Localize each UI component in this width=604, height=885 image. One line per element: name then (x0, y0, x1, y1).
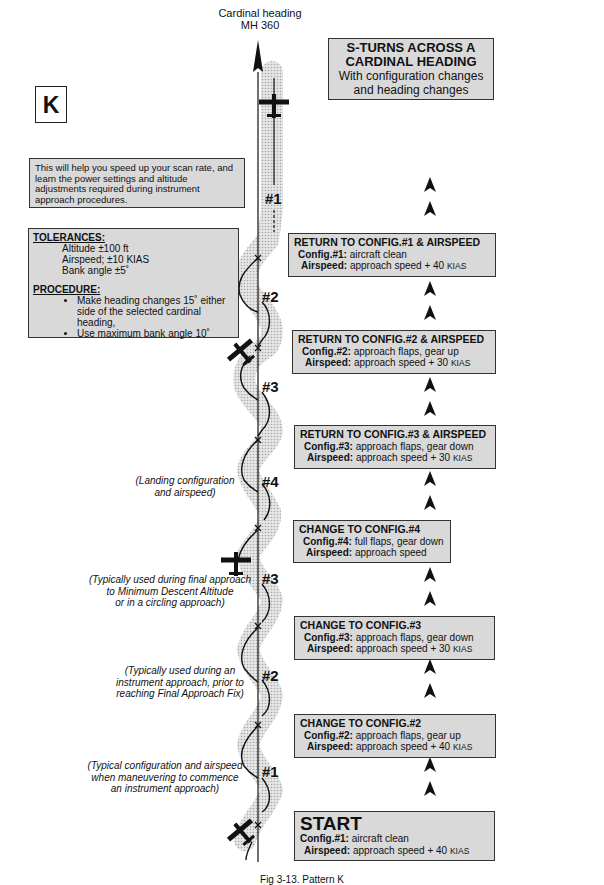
airspeed-value: approach speed + 40 (353, 845, 447, 856)
path-label: #3 (262, 378, 279, 395)
config-label: Config.#2: (304, 730, 353, 741)
title-line1: S-TURNS ACROSS A (329, 41, 493, 55)
note-landing: (Landing configuration and airspeed) (130, 475, 240, 498)
step-title: RETURN TO CONFIG.#3 & AIRSPEED (300, 429, 490, 441)
airspeed-value: approach speed + 30 (356, 643, 450, 654)
airspeed-value: approach speed + 40 (356, 741, 450, 752)
path-label: #1 (262, 763, 279, 780)
figure-caption: Fig 3-13. Pattern K (0, 874, 604, 885)
config-label: Config.#4: (303, 536, 352, 547)
config-value: approach flaps, gear down (356, 632, 474, 643)
airspeed-unit: KIAS (447, 261, 466, 271)
path-label: #4 (262, 473, 279, 490)
step-title: RETURN TO CONFIG.#1 & AIRSPEED (294, 237, 490, 249)
procedure-item: Make heading changes 15˚ either side of … (77, 295, 234, 328)
step-box-change-config-3: CHANGE TO CONFIG.#3 Config.#3: approach … (294, 616, 495, 660)
airspeed-label: Airspeed: (307, 452, 353, 463)
path-label: #2 (262, 288, 279, 305)
heading-label: Cardinal heading MH 360 (205, 7, 315, 31)
pattern-letter: K (35, 86, 67, 123)
note-line: or in a circling approach) (70, 597, 270, 609)
config-value: aircraft clean (350, 249, 407, 260)
heading-label-line2: MH 360 (205, 19, 315, 31)
path-label: #1 (265, 190, 282, 207)
config-value: approach flaps, gear down (356, 441, 474, 452)
note-line: (Typically used during final approach (70, 574, 270, 586)
tolerances-box: TOLERANCES: Altitude ±100 ft Airspeed; ±… (28, 228, 239, 338)
config-value: full flaps, gear down (355, 536, 444, 547)
airspeed-value: approach speed + 40 (350, 260, 444, 271)
tolerance-item: Altitude ±100 ft (33, 243, 234, 254)
note-line: and airspeed) (130, 487, 240, 499)
step-box-start: START Config.#1: aircraft clean Airspeed… (294, 811, 495, 861)
step-box-change-config-2: CHANGE TO CONFIG.#2 Config.#2: approach … (294, 714, 496, 758)
note-line: (Typically used during an (100, 665, 260, 677)
step-title: CHANGE TO CONFIG.#2 (300, 718, 490, 730)
airspeed-label: Airspeed: (304, 845, 350, 856)
step-box-return-config-1: RETURN TO CONFIG.#1 & AIRSPEED Config.#1… (288, 233, 496, 277)
procedure-item: Use maximum bank angle 10˚ (77, 328, 234, 339)
tolerances-header: TOLERANCES: (33, 232, 234, 243)
step-box-return-config-3: RETURN TO CONFIG.#3 & AIRSPEED Config.#3… (294, 425, 496, 469)
airspeed-label: Airspeed: (301, 260, 347, 271)
airspeed-label: Airspeed: (305, 357, 351, 368)
subtitle-line1: With configuration changes (329, 69, 493, 83)
step-title: START (300, 815, 489, 833)
step-title: CHANGE TO CONFIG.#4 (299, 524, 445, 536)
subtitle-line2: and heading changes (329, 83, 493, 97)
airspeed-value: approach speed (355, 547, 427, 558)
airspeed-unit: KIAS (451, 358, 470, 368)
procedure-header: PROCEDURE: (33, 284, 234, 295)
title-box: S-TURNS ACROSS A CARDINAL HEADING With c… (328, 38, 494, 100)
config-label: Config.#3: (304, 632, 353, 643)
procedure-list: Make heading changes 15˚ either side of … (33, 295, 234, 339)
airspeed-unit: KIAS (453, 453, 472, 463)
note-final-approach: (Typically used during final approach to… (70, 574, 270, 609)
note-maneuvering: (Typical configuration and airspeed when… (70, 760, 260, 795)
step-box-return-config-2: RETURN TO CONFIG.#2 & AIRSPEED Config.#2… (292, 330, 496, 374)
airspeed-value: approach speed + 30 (356, 452, 450, 463)
step-box-change-config-4: CHANGE TO CONFIG.#4 Config.#4: full flap… (293, 520, 451, 563)
tolerance-item: Airspeed; ±10 KIAS (33, 254, 234, 265)
airspeed-label: Airspeed: (306, 547, 352, 558)
airspeed-unit: KIAS (453, 644, 472, 654)
airspeed-label: Airspeed: (307, 741, 353, 752)
airspeed-unit: KIAS (450, 846, 469, 856)
tolerance-item: Bank angle ±5˚ (33, 265, 234, 276)
config-value: aircraft clean (352, 833, 409, 844)
intro-box: This will help you speed up your scan ra… (29, 158, 245, 208)
note-line: (Typical configuration and airspeed (70, 760, 260, 772)
step-title: CHANGE TO CONFIG.#3 (300, 620, 489, 632)
config-label: Config.#1: (300, 833, 349, 844)
config-label: Config.#2: (302, 346, 351, 357)
config-label: Config.#1: (298, 249, 347, 260)
airspeed-value: approach speed + 30 (354, 357, 448, 368)
path-label: #2 (262, 667, 279, 684)
config-value: approach flaps, gear up (356, 730, 461, 741)
airspeed-unit: KIAS (453, 742, 472, 752)
note-instrument-approach: (Typically used during an instrument app… (100, 665, 260, 700)
title-line2: CARDINAL HEADING (329, 55, 493, 69)
note-line: (Landing configuration (130, 475, 240, 487)
config-value: approach flaps, gear up (354, 346, 459, 357)
airspeed-label: Airspeed: (307, 643, 353, 654)
note-line: reaching Final Approach Fix) (100, 688, 260, 700)
note-line: to Minimum Descent Altitude (70, 586, 270, 598)
note-line: instrument approach, prior to (100, 677, 260, 689)
note-line: an instrument approach) (70, 783, 260, 795)
north-arrow-icon (253, 40, 263, 72)
step-title: RETURN TO CONFIG.#2 & AIRSPEED (298, 334, 490, 346)
heading-label-line1: Cardinal heading (205, 7, 315, 19)
note-line: when maneuvering to commence (70, 772, 260, 784)
config-label: Config.#3: (304, 441, 353, 452)
